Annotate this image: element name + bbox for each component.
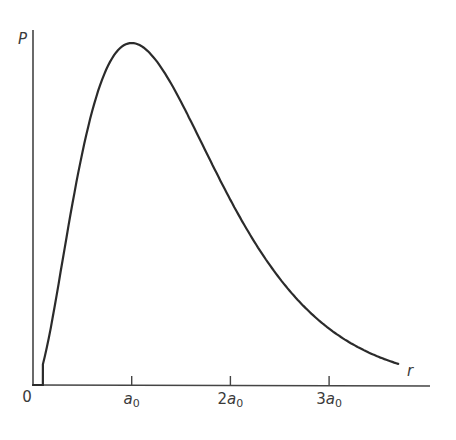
x-tick-label: 3a0 xyxy=(316,392,342,409)
chart-canvas xyxy=(0,0,456,440)
x-axis xyxy=(33,385,430,386)
y-axis-label: P xyxy=(18,32,27,47)
x-axis-label: r xyxy=(407,364,413,379)
x-tick-label: a0 xyxy=(124,392,140,409)
x-axis-ticks xyxy=(132,376,329,385)
x-tick-label: 2a0 xyxy=(218,392,244,409)
probability-curve xyxy=(33,43,398,385)
x-tick-label: 0 xyxy=(22,390,32,405)
